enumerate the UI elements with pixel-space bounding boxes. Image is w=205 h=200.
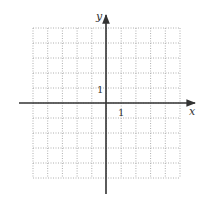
x-axis-label: x xyxy=(189,105,196,118)
coordinate-plane: y x 1 1 xyxy=(0,0,205,200)
y-axis-label: y xyxy=(95,10,103,23)
x-unit-label: 1 xyxy=(118,107,124,118)
y-unit-label: 1 xyxy=(97,84,103,95)
